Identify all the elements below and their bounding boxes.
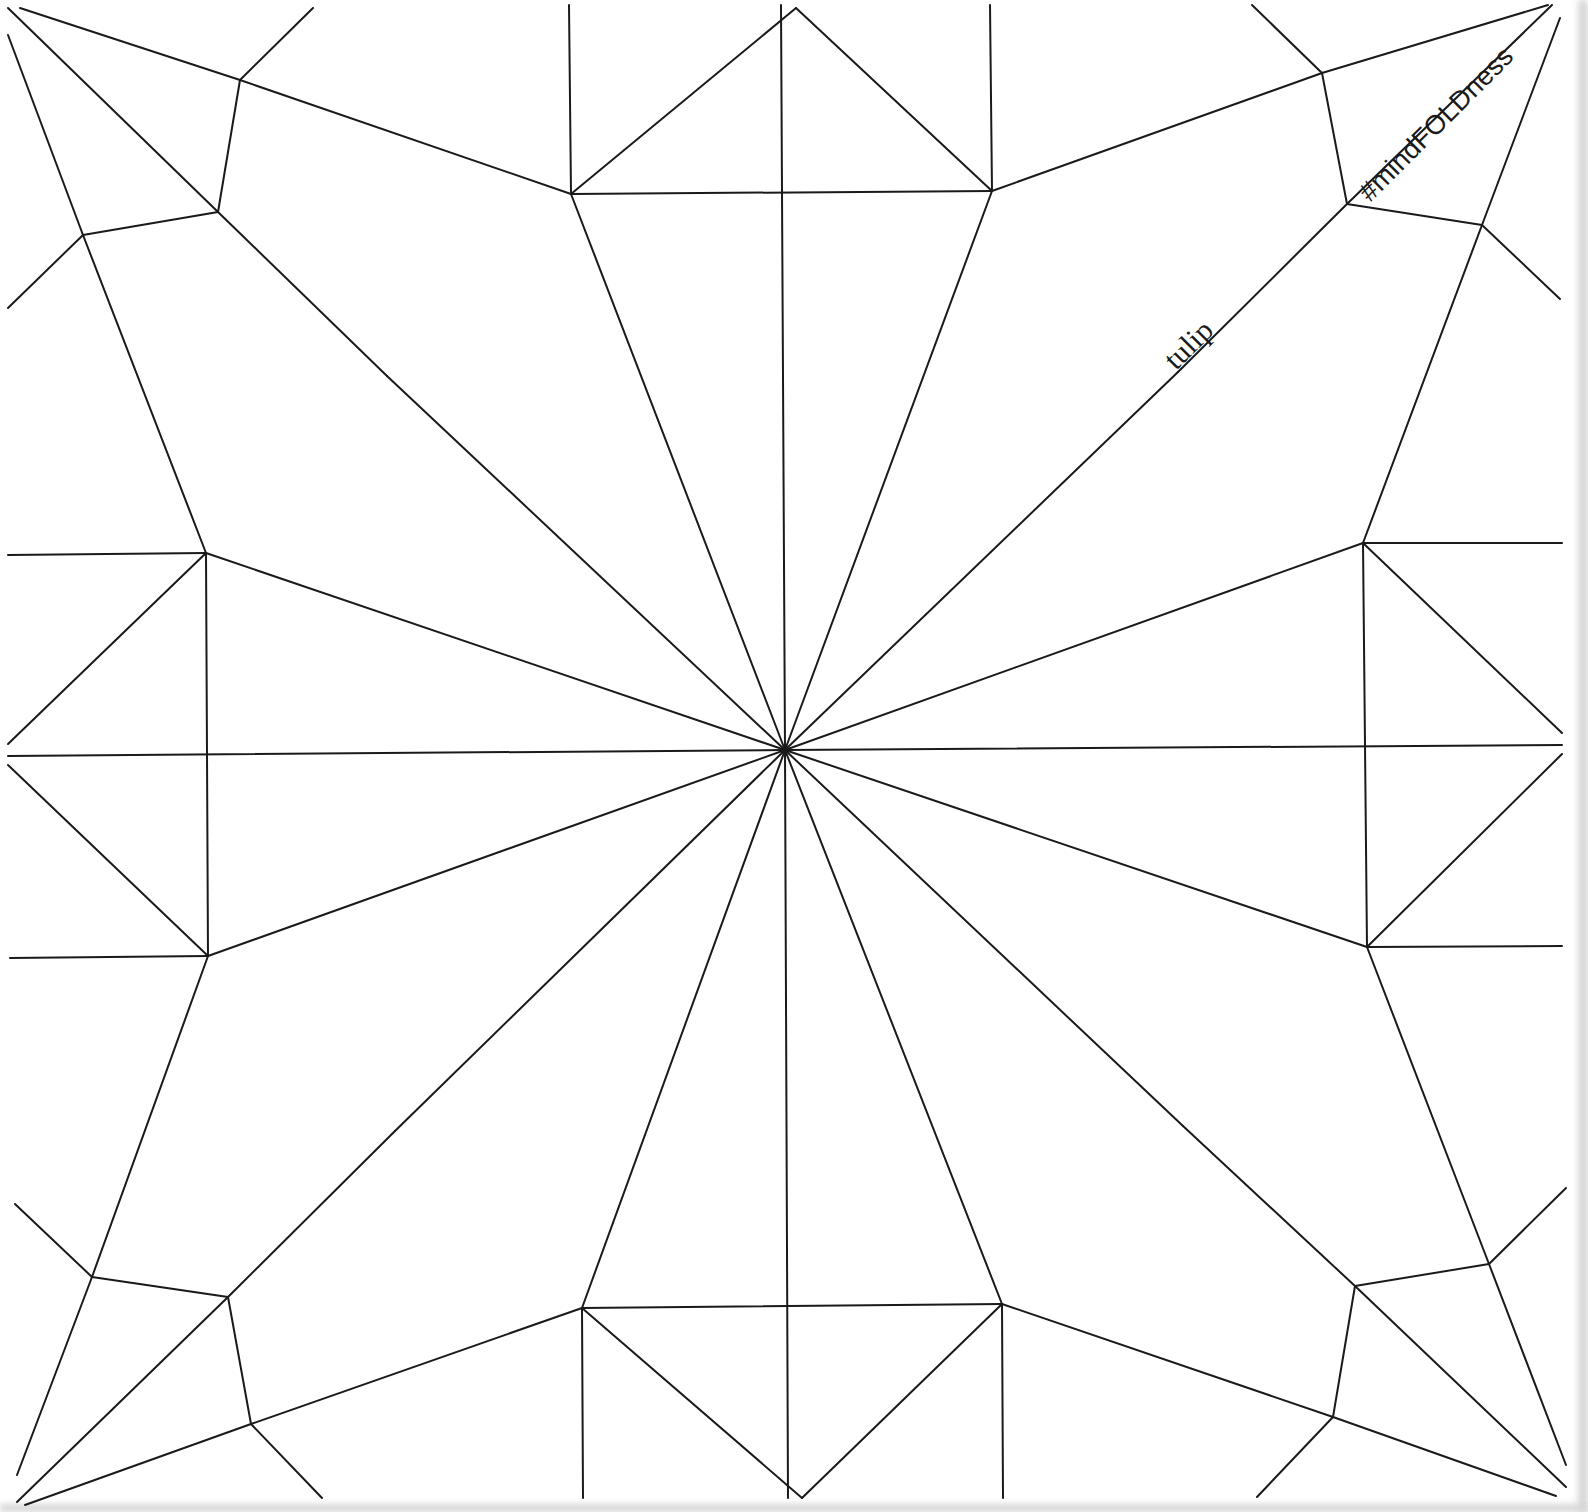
crease-line xyxy=(571,194,785,750)
crease-line xyxy=(218,212,387,376)
crease-line xyxy=(992,73,1322,191)
crease-line xyxy=(582,1308,802,1498)
crease-line xyxy=(92,1277,228,1297)
crease-line xyxy=(785,750,1002,1304)
crease-line xyxy=(395,750,785,1131)
crease-line xyxy=(206,553,208,956)
crease-line xyxy=(387,376,785,750)
crease-line xyxy=(785,745,1562,750)
crease-line xyxy=(569,5,571,194)
crease-line xyxy=(1367,754,1562,947)
crease-line xyxy=(785,191,992,750)
crease-line xyxy=(802,1304,1002,1498)
crease-line xyxy=(582,1308,583,1498)
crease-line xyxy=(8,553,206,555)
crease-line xyxy=(785,750,1183,1126)
crease-line xyxy=(796,8,992,191)
crease-line xyxy=(1002,1304,1003,1498)
crease-line xyxy=(10,956,208,958)
crease-line xyxy=(785,543,1363,750)
crease-line xyxy=(990,5,992,191)
crease-line xyxy=(1489,1188,1566,1264)
crease-line xyxy=(208,750,785,956)
crease-line xyxy=(8,35,83,235)
crease-line xyxy=(582,1304,1002,1308)
crease-line xyxy=(206,553,785,750)
crease-pattern-canvas: #mindFOLDness tulip xyxy=(0,0,1588,1512)
crease-line xyxy=(571,8,796,194)
crease-line xyxy=(251,1308,582,1424)
crease-line xyxy=(25,1424,251,1505)
crease-line xyxy=(92,956,208,1277)
crease-line xyxy=(8,765,208,956)
crease-line xyxy=(785,750,1367,947)
crease-line xyxy=(1367,946,1562,947)
crease-line xyxy=(15,1204,92,1277)
crease-line xyxy=(17,1297,228,1502)
crease-line xyxy=(1363,543,1562,733)
crease-line xyxy=(1355,1264,1489,1286)
crease-line xyxy=(582,750,785,1308)
crease-line xyxy=(83,235,206,553)
crease-line xyxy=(1002,1304,1333,1417)
crease-line xyxy=(1367,947,1489,1264)
crease-line xyxy=(8,553,206,744)
crease-line xyxy=(228,1131,395,1297)
crease-line xyxy=(83,212,218,235)
crease-line xyxy=(1322,73,1347,204)
crease-line xyxy=(785,372,1178,750)
crease-line xyxy=(17,1277,92,1475)
crease-line xyxy=(251,1424,322,1498)
crease-line xyxy=(1183,1126,1355,1286)
crease-line xyxy=(785,750,788,1498)
crease-line xyxy=(1257,1417,1333,1497)
crease-line xyxy=(228,1297,251,1424)
crease-line xyxy=(1333,1417,1556,1496)
crease-line xyxy=(1482,225,1560,299)
crease-line xyxy=(8,235,83,308)
crease-line xyxy=(1355,1286,1566,1487)
crease-line xyxy=(1333,1286,1355,1417)
crease-line xyxy=(8,750,785,756)
crease-line xyxy=(20,8,240,80)
crease-line xyxy=(218,80,240,212)
crease-line xyxy=(240,8,313,80)
crease-lines xyxy=(0,0,1588,1512)
crease-line xyxy=(1363,225,1482,543)
crease-line xyxy=(781,5,785,750)
crease-line xyxy=(240,80,571,194)
crease-line xyxy=(1489,1264,1566,1465)
crease-line xyxy=(1252,5,1322,73)
crease-line xyxy=(1363,543,1367,947)
crease-line xyxy=(1347,204,1482,225)
